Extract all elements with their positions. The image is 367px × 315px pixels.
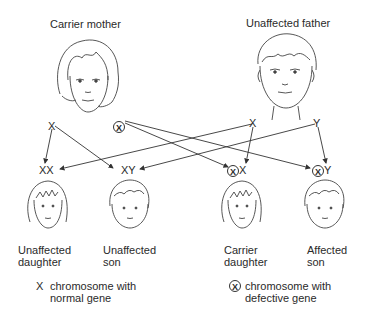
legend-defective-symbol: X: [229, 279, 241, 292]
child-label-line2: son: [307, 256, 325, 268]
father-face-icon: [252, 30, 318, 120]
father-x: X: [249, 117, 256, 129]
child-label-line2: son: [103, 256, 121, 268]
child-label-line1: Carrier: [224, 244, 258, 256]
child-label-line2: daughter: [224, 256, 267, 268]
genotype-rest: Y: [324, 164, 331, 176]
child-genotype: XY: [121, 164, 136, 176]
legend-defective-line2: defective gene: [245, 292, 317, 305]
legend-normal-line2: normal gene: [50, 292, 111, 305]
child-genotype: XX: [227, 164, 246, 177]
defective-x-symbol: X: [312, 165, 324, 177]
defective-x-symbol: X: [229, 280, 241, 292]
child-label-line1: Unaffected: [18, 244, 71, 256]
daughter-face-icon: [218, 178, 264, 230]
daughter-face-icon: [24, 178, 70, 230]
father-y: Y: [313, 117, 320, 129]
mother-face-icon: [52, 36, 124, 118]
legend-normal-symbol: X: [36, 280, 43, 293]
child-label-line1: Affected: [307, 244, 347, 256]
child-genotype: XX: [39, 164, 54, 176]
defective-x-symbol: X: [113, 121, 125, 133]
child-genotype: XY: [312, 164, 331, 177]
defective-x-symbol: X: [227, 165, 239, 177]
son-face-icon: [106, 178, 152, 230]
child-label-line1: Unaffected: [103, 244, 156, 256]
child-label-line2: daughter: [18, 256, 61, 268]
son-face-icon: [301, 178, 347, 230]
mother-label: Carrier mother: [50, 18, 121, 30]
mother-normal-x: X: [48, 120, 55, 132]
father-label: Unaffected father: [246, 17, 330, 29]
mother-defective-x: X: [113, 117, 125, 135]
genotype-rest: X: [239, 164, 246, 176]
